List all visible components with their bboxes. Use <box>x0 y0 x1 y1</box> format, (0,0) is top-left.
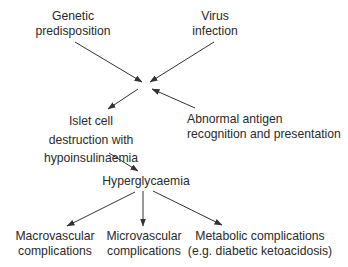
arrow-antigen-to-convergence <box>152 89 195 108</box>
node-hyperglycaemia: Hyperglycaemia <box>102 174 189 189</box>
node-microvascular-complications: Microvascular complications <box>106 229 181 258</box>
node-label-line: complications <box>106 244 181 259</box>
node-abnormal-antigen: Abnormal antigen recognition and present… <box>187 112 341 141</box>
node-genetic-predisposition: Genetic predisposition <box>35 9 110 38</box>
node-label-line: Macrovascular <box>15 229 94 244</box>
node-label-line: hypoinsulinaemia <box>44 149 138 168</box>
node-label-line: Genetic <box>35 9 110 24</box>
node-metabolic-complications: Metabolic complications (e.g. diabetic k… <box>188 229 332 258</box>
node-label-line: (e.g. diabetic ketoacidosis) <box>188 244 332 259</box>
node-label-line: recognition and presentation <box>187 127 341 142</box>
node-label-line: Metabolic complications <box>188 229 332 244</box>
arrow-genetic-to-convergence <box>75 42 142 82</box>
node-label-line: Hyperglycaemia <box>102 174 189 189</box>
node-virus-infection: Virus infection <box>192 9 237 38</box>
node-label-line: Virus <box>192 9 237 24</box>
node-label-line: complications <box>15 244 94 259</box>
node-label-line: infection <box>192 24 237 39</box>
arrow-convergence-to-islet <box>108 89 138 109</box>
node-label-line: Microvascular <box>106 229 181 244</box>
node-label-line: Islet cell <box>44 112 138 131</box>
node-label-line: destruction with <box>44 131 138 150</box>
arrow-hyperglycaemia-to-macrovascular <box>67 192 135 226</box>
node-islet-cell-destruction: Islet cell destruction with hypoinsulina… <box>44 112 138 168</box>
node-label-line: predisposition <box>35 24 110 39</box>
node-label-line: Abnormal antigen <box>187 112 341 127</box>
arrow-hyperglycaemia-to-metabolic <box>153 191 222 225</box>
arrow-virus-to-convergence <box>150 42 214 82</box>
node-macrovascular-complications: Macrovascular complications <box>15 229 94 258</box>
